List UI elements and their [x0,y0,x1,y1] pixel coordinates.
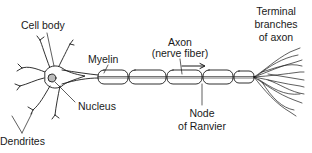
myelin-sheath [98,70,256,84]
label-nucleus: Nucleus [78,100,116,112]
label-dendrites: Dendrites [0,135,45,147]
dendrites-lower [28,86,60,119]
label-terminal-line3: of axon [246,31,306,43]
label-terminal-line1: Terminal [246,5,306,17]
label-cell-body: Cell body [21,19,65,31]
nucleus [48,74,56,82]
label-myelin: Myelin [88,53,118,65]
direction-arrow [182,64,205,69]
label-node-line2: of Ranvier [176,120,228,132]
label-terminal-line2: branches [246,18,306,30]
label-axon-line2: (nerve fiber) [145,47,215,59]
terminal-branches [254,48,304,116]
label-node-line1: Node [185,107,219,119]
